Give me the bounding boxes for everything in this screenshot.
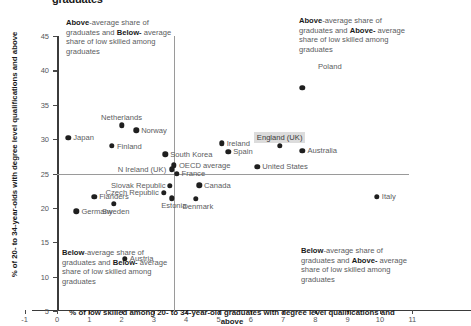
data-point[interactable] — [91, 194, 96, 199]
x-tick-label: -1 — [18, 315, 32, 324]
data-point[interactable] — [167, 183, 172, 188]
y-tick-mark — [53, 242, 57, 243]
data-point-label: N Ireland (UK) — [118, 165, 167, 174]
data-point[interactable] — [300, 148, 305, 153]
y-tick-mark — [53, 36, 57, 37]
x-axis-title: % of low skilled among 20- to 34-year-ol… — [57, 308, 407, 326]
y-tick-label: 5 — [33, 307, 49, 316]
data-point-label: Italy — [382, 192, 396, 201]
data-point-label: Denmark — [182, 202, 213, 211]
y-tick-mark — [53, 139, 57, 140]
data-point-label: Flanders — [99, 192, 129, 201]
x-tick-mark — [25, 310, 26, 314]
y-tick-label: 15 — [33, 238, 49, 247]
data-point[interactable] — [193, 196, 198, 201]
data-point[interactable] — [161, 190, 166, 195]
data-point-label: Spain — [233, 147, 252, 156]
data-point[interactable] — [74, 209, 79, 214]
quadrant-note-bottom-right: Below-average share of graduates and Abo… — [301, 246, 413, 284]
y-tick-label: 35 — [33, 100, 49, 109]
y-tick-label: 30 — [33, 135, 49, 144]
data-point[interactable] — [300, 85, 305, 90]
y-tick-label: 40 — [33, 66, 49, 75]
y-axis-title: % of 20- to 34-year-olds with degree lev… — [10, 25, 19, 285]
data-point[interactable] — [109, 143, 114, 148]
quadrant-note-bottom-left: Below-average share of graduates and Bel… — [62, 248, 174, 286]
legend-entry-poland: Poland — [318, 62, 342, 71]
data-point-label: England (UK) — [254, 132, 306, 143]
quadrant-note-top-right: Above-average share of graduates and Abo… — [299, 16, 411, 54]
data-point[interactable] — [277, 143, 282, 148]
data-point-label: Japan — [73, 133, 94, 142]
data-point-label: Canada — [204, 181, 231, 190]
y-tick-mark — [53, 105, 57, 106]
quadrant-note-top-left: Above-average share of graduates and Bel… — [66, 18, 178, 56]
data-point[interactable] — [255, 164, 260, 169]
data-point-label: Australia — [307, 146, 337, 155]
x-tick-mark — [412, 310, 413, 314]
data-point[interactable] — [374, 194, 379, 199]
y-tick-label: 20 — [33, 203, 49, 212]
data-point-label: France — [182, 169, 206, 178]
y-tick-mark — [53, 208, 57, 209]
y-tick-mark — [53, 277, 57, 278]
x-tick-label: 11 — [405, 315, 419, 324]
y-tick-label: 45 — [33, 32, 49, 41]
data-point[interactable] — [111, 201, 116, 206]
y-tick-label: 25 — [33, 169, 49, 178]
data-point[interactable] — [174, 171, 179, 176]
data-point[interactable] — [119, 123, 124, 128]
y-tick-mark — [53, 70, 57, 71]
data-point-label: Germany — [81, 207, 112, 216]
data-point-label: Norway — [141, 126, 167, 135]
y-tick-label: 10 — [33, 272, 49, 281]
horizontal-reference-line — [57, 174, 409, 175]
data-point[interactable] — [225, 149, 230, 154]
y-tick-mark — [53, 174, 57, 175]
data-point[interactable] — [133, 127, 138, 132]
data-point[interactable] — [196, 182, 201, 187]
data-point-label: Netherlands — [101, 113, 142, 122]
data-point-label: Finland — [117, 142, 142, 151]
data-point[interactable] — [219, 141, 224, 146]
data-point-label: South Korea — [170, 150, 212, 159]
data-point[interactable] — [66, 135, 71, 140]
data-point-label: United States — [262, 162, 308, 171]
chart-title: graduates — [52, 0, 103, 5]
data-point[interactable] — [163, 152, 168, 157]
